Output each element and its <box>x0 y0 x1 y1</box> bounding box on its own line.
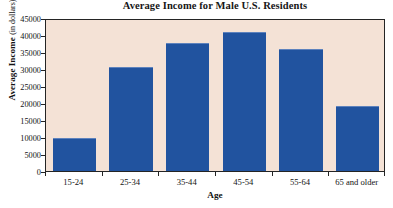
bar-chart-figure: Average Income for Male U.S. Residents 0… <box>0 0 393 208</box>
x-axis-tick-label: 15-24 <box>63 177 83 187</box>
bar-35-44 <box>166 43 209 171</box>
bar-slot <box>46 20 103 171</box>
y-axis-title-unit: (in dollars) <box>8 0 17 35</box>
chart-title: Average Income for Male U.S. Residents <box>45 0 385 11</box>
x-axis-tick-mark <box>158 172 159 176</box>
x-axis-tick-mark <box>272 172 273 176</box>
y-axis-tick-label: 0 <box>0 168 41 177</box>
x-axis-tick-mark <box>384 172 385 176</box>
bar-slot <box>159 20 216 171</box>
x-axis-tick-mark <box>45 172 46 176</box>
x-axis-tick-mark <box>102 172 103 176</box>
y-axis-tick-label: 10000 <box>0 134 41 143</box>
x-axis-tick-label: 45-54 <box>233 177 253 187</box>
y-axis-title: Average Income (in dollars) <box>7 0 17 125</box>
x-axis-tick-label: 65 and older <box>335 177 378 187</box>
bar-45-54 <box>223 32 266 171</box>
bar-slot <box>216 20 273 171</box>
bar-15-24 <box>53 138 96 171</box>
x-axis-tick-mark <box>215 172 216 176</box>
bar-55-64 <box>279 49 322 171</box>
bar-slot <box>329 20 386 171</box>
x-axis-tick-labels: 15-2425-3435-4445-5455-6465 and older <box>45 177 385 190</box>
bars-layer <box>46 20 384 171</box>
x-axis-title: Age <box>45 190 385 200</box>
x-axis-tick-label: 55-64 <box>290 177 310 187</box>
x-axis-tick-mark <box>328 172 329 176</box>
y-axis-tick-label: 5000 <box>0 151 41 160</box>
bar-slot <box>103 20 160 171</box>
plot-area <box>45 19 385 172</box>
bar-65-and-older <box>336 106 379 171</box>
bar-slot <box>273 20 330 171</box>
y-axis-title-text: Average Income <box>7 37 17 100</box>
bar-25-34 <box>109 67 152 171</box>
x-axis-tick-label: 25-34 <box>120 177 140 187</box>
x-axis-tick-label: 35-44 <box>177 177 197 187</box>
